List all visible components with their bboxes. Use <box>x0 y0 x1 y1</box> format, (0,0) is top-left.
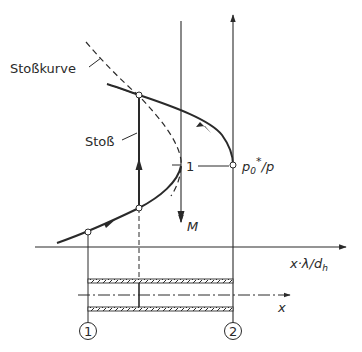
shock-curve <box>86 42 181 196</box>
pressure-axis-label: p0*/p <box>241 155 274 176</box>
tangent-extension <box>107 84 139 95</box>
point-inlet <box>85 229 91 235</box>
point-after-shock <box>136 92 142 98</box>
friction-axis-label: x·λ/dh <box>289 256 328 273</box>
pipe-wall-bottom <box>88 307 233 311</box>
mach-arrow-head <box>178 211 185 223</box>
flow-arrow-inlet <box>104 219 116 228</box>
supersonic-branch <box>107 84 233 165</box>
station-2-label: 2 <box>229 324 237 339</box>
shock-arrow <box>136 158 143 170</box>
pipe-axis-label: x <box>277 300 286 315</box>
station-1-label: 1 <box>84 324 92 339</box>
point-outlet <box>230 162 236 168</box>
shock-curve-leader <box>89 58 101 67</box>
pipe-wall-top <box>88 279 233 283</box>
shock-leader <box>122 133 137 140</box>
shock-label: Stoß <box>85 134 115 149</box>
shock-curve-label: Stoßkurve <box>10 61 76 76</box>
fanno-shock-diagram: x·λ/dh M p0*/p 1 Stoßkurve Stoß x 1 2 <box>0 0 362 352</box>
mach-axis-label: M <box>187 219 198 234</box>
subsonic-branch <box>57 166 181 243</box>
point-before-shock <box>136 205 142 211</box>
unity-mark-label: 1 <box>186 159 194 174</box>
